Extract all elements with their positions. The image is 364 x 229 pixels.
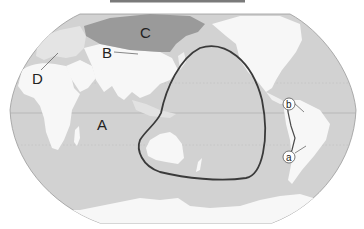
circled-label-a: a xyxy=(283,151,295,163)
label-small-b: b xyxy=(286,99,292,110)
label-small-a: a xyxy=(286,152,292,163)
circled-label-b: b xyxy=(283,98,295,110)
label-b: B xyxy=(102,44,112,61)
label-d: D xyxy=(32,70,43,87)
label-a: A xyxy=(97,116,107,133)
world-map: C B D A b a xyxy=(0,0,364,229)
top-bar xyxy=(110,0,245,3)
label-c: C xyxy=(140,24,151,41)
